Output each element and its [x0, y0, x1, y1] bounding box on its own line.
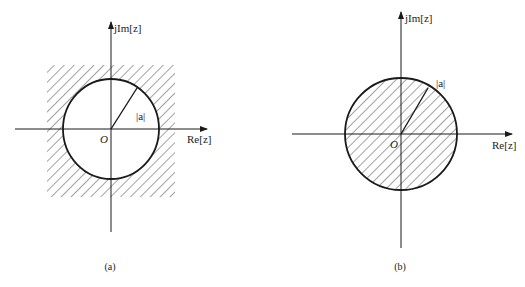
figure-a: jIm[z] Re[z] O |a| (a): [15, 22, 211, 273]
origin-label: O: [390, 138, 398, 150]
caption-a: (a): [104, 261, 115, 273]
imag-axis-label: jIm[z]: [404, 12, 432, 24]
radius-line: [111, 88, 137, 129]
figure-b: jIm[z] Re[z] O |a| (b): [292, 12, 516, 273]
imag-axis-label: jIm[z]: [113, 22, 141, 34]
real-axis-label: Re[z]: [187, 133, 211, 145]
radius-label: |a|: [136, 110, 145, 122]
diagram-svg: jIm[z] Re[z] O |a| (a) jIm[z] Re[z] O |a…: [0, 0, 525, 287]
real-axis-label: Re[z]: [492, 139, 516, 151]
radius-label: |a|: [436, 77, 445, 89]
caption-b: (b): [394, 261, 406, 273]
origin-label: O: [100, 133, 108, 145]
z-plane-roc-diagrams: jIm[z] Re[z] O |a| (a) jIm[z] Re[z] O |a…: [0, 0, 525, 287]
